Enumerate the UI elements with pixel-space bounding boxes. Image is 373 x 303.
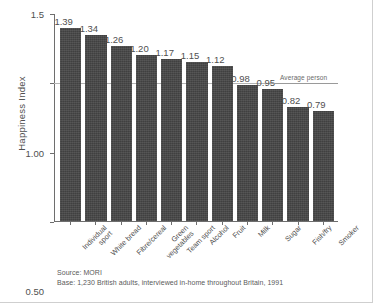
- x-category-label: Milk: [256, 224, 271, 239]
- x-category-label: Fruit: [231, 224, 247, 240]
- bar-value-label: 1.17: [155, 47, 174, 59]
- bar-slot: 1.17: [159, 14, 184, 221]
- x-category-label: Sugar: [284, 224, 304, 244]
- bar-slot: 1.39: [58, 14, 83, 221]
- bar-slot: 1.12: [210, 14, 235, 221]
- x-label-line: Smoker: [337, 224, 361, 248]
- source-note: Source: MORI: [57, 268, 283, 278]
- x-category-label: Smoker: [337, 224, 361, 248]
- bar-value-label: 0.79: [307, 99, 326, 111]
- bar: [136, 55, 157, 221]
- bar: [161, 59, 182, 221]
- footnotes: Source: MORI Base: 1,230 British adults,…: [57, 268, 283, 287]
- bar-value-label: 1.26: [105, 34, 124, 46]
- bar: [212, 66, 233, 221]
- bar-value-label: 1.39: [54, 16, 73, 28]
- x-label-line: Milk: [256, 224, 271, 239]
- bar: [60, 28, 81, 221]
- bar-value-label: 0.82: [282, 95, 301, 107]
- x-label-line: Sugar: [284, 224, 304, 244]
- y-tick-mark: 1.5: [50, 14, 54, 15]
- y-tick-label: 1.5: [31, 9, 44, 20]
- bar-value-label: 1.12: [206, 54, 225, 66]
- x-axis-category-labels: IndividualsportWhite breadFibre/cerealGr…: [54, 224, 338, 268]
- bar: [262, 89, 283, 221]
- plot-area: 0.000.501.001.5 1.391.341.261.201.171.15…: [54, 14, 338, 222]
- y-tick-mark: 0.50: [50, 153, 54, 154]
- bar-slot: 1.15: [184, 14, 209, 221]
- bar: [85, 35, 106, 221]
- bar-slot: 0.95: [260, 14, 285, 221]
- bar-slot: 0.82: [285, 14, 310, 221]
- average-person-label: Average person: [280, 74, 327, 81]
- bar-value-label: 0.98: [231, 73, 250, 85]
- bar: [237, 85, 258, 221]
- base-note: Base: 1,230 British adults, interviewed …: [57, 278, 283, 288]
- average-person-line: [272, 83, 338, 84]
- bar-value-label: 1.34: [80, 23, 99, 35]
- y-tick-label: 0.50: [26, 286, 45, 297]
- y-tick-mark: 0.00: [50, 222, 54, 223]
- bar-value-label: 1.20: [130, 43, 149, 55]
- y-tick-label: 1.00: [26, 147, 45, 158]
- bar: [313, 111, 334, 221]
- x-label-line: Fish/fry: [311, 224, 334, 247]
- bar: [287, 107, 308, 221]
- bar-slot: 0.98: [235, 14, 260, 221]
- bar-slot: 1.20: [134, 14, 159, 221]
- bar-series: 1.391.341.261.201.171.151.120.980.950.82…: [55, 14, 338, 221]
- x-category-label: Fish/fry: [311, 224, 334, 247]
- chart-figure: Happiness Index 0.000.501.001.5 1.391.34…: [0, 0, 373, 303]
- bar: [111, 46, 132, 221]
- bar-value-label: 1.15: [181, 50, 200, 62]
- x-label-line: Fruit: [231, 224, 247, 240]
- y-axis-title: Happiness Index: [16, 39, 27, 189]
- bar: [186, 62, 207, 221]
- bar-slot: 0.79: [311, 14, 336, 221]
